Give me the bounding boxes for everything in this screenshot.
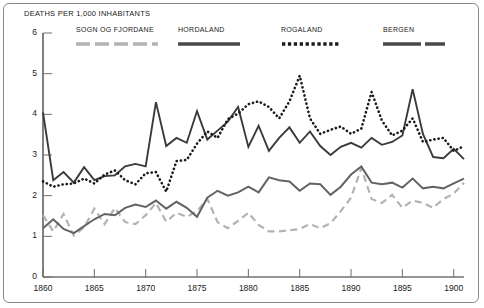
series-line-rogaland [43, 76, 464, 192]
chart-figure: DEATHS PER 1,000 INHABITANTS SOGN OG FJO… [0, 0, 484, 308]
x-tick-label: 1875 [179, 283, 215, 293]
x-tick-label: 1900 [436, 283, 472, 293]
y-tick-label: 0 [21, 271, 37, 281]
x-tick-label: 1885 [282, 283, 318, 293]
data-series [43, 76, 464, 236]
y-tick-label: 3 [21, 149, 37, 159]
x-tick-label: 1870 [128, 283, 164, 293]
x-tick-label: 1860 [25, 283, 61, 293]
y-tick-label: 2 [21, 190, 37, 200]
plot-area: 0123456 18601865187018751880188518901895… [0, 0, 484, 308]
y-tick-label: 5 [21, 68, 37, 78]
x-tick-label: 1880 [230, 283, 266, 293]
chart-svg [0, 0, 484, 308]
y-tick-label: 6 [21, 27, 37, 37]
x-tick-label: 1865 [76, 283, 112, 293]
series-line-sogn-og-fjordane [43, 168, 464, 236]
x-tick-label: 1895 [384, 283, 420, 293]
y-tick-label: 4 [21, 108, 37, 118]
y-tick-label: 1 [21, 230, 37, 240]
axes [43, 33, 464, 277]
x-tick-label: 1890 [333, 283, 369, 293]
